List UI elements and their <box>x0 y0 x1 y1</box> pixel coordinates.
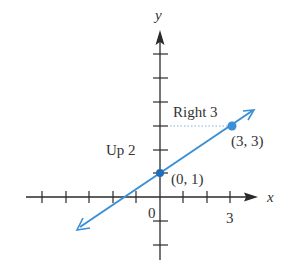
origin-label: 0 <box>148 205 156 221</box>
y-axis-label: y <box>153 7 162 23</box>
point-label-0-1: (0, 1) <box>171 171 204 188</box>
x-axis-label: x <box>266 189 274 205</box>
x-axis-arrow-icon <box>244 193 258 202</box>
y-axis: y <box>153 7 168 260</box>
coordinate-graph: x 0 3 y (0, 1) (3, 3) Right 3 Up 2 <box>0 0 287 270</box>
point-3-3 <box>228 122 237 131</box>
point-0-1 <box>156 169 164 177</box>
point-label-3-3: (3, 3) <box>231 133 264 150</box>
x-axis: x 0 3 <box>26 189 274 226</box>
x-tick-label-3: 3 <box>226 210 234 226</box>
rise-annotation: Up 2 <box>106 142 136 158</box>
run-annotation: Right 3 <box>173 104 218 120</box>
